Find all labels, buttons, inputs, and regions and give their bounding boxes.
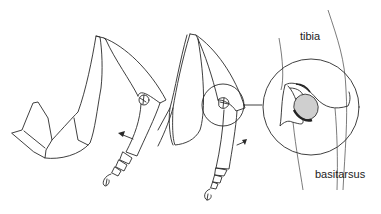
leg-2-drawing (158, 34, 262, 200)
basitarsus-label: basitarsus (315, 169, 365, 180)
leg-figure: tibia basitarsus (0, 0, 381, 214)
leg-1-drawing (12, 35, 187, 186)
tibia-label: tibia (300, 31, 320, 42)
figure-drawing (0, 0, 381, 214)
